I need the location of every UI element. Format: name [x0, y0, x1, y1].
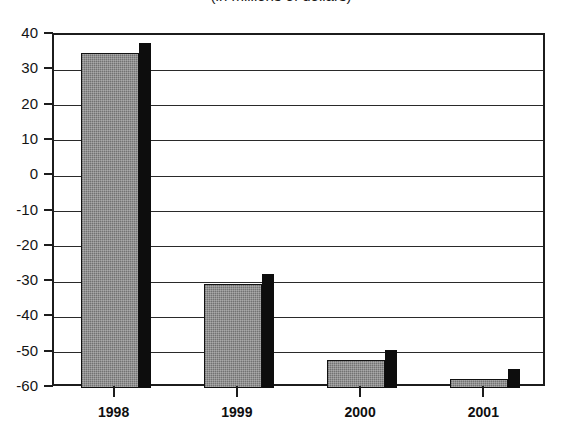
- chart-title-clipped: (in millions of dollars): [0, 0, 562, 13]
- y-axis-label: 20: [0, 96, 38, 111]
- y-axis-label: -50: [0, 343, 38, 358]
- bar-face: [327, 360, 385, 388]
- bar-side-shadow: [385, 350, 397, 388]
- x-axis-tick: [113, 386, 115, 397]
- y-axis-label: -60: [0, 378, 38, 393]
- plot-area: [52, 33, 545, 386]
- y-axis-tick: [44, 138, 53, 140]
- bar-side-shadow: [508, 369, 520, 388]
- x-axis-tick: [236, 386, 238, 397]
- x-axis-label-1999: 1999: [197, 405, 277, 419]
- x-axis-tick: [482, 386, 484, 397]
- y-axis-tick: [44, 244, 53, 246]
- bar-face: [81, 53, 139, 388]
- y-axis-tick: [44, 173, 53, 175]
- y-axis-label: 10: [0, 131, 38, 146]
- y-axis-tick: [44, 350, 53, 352]
- y-axis-tick: [44, 67, 53, 69]
- y-axis-tick: [44, 209, 53, 211]
- x-axis-label-2000: 2000: [320, 405, 400, 419]
- chart-page: (in millions of dollars) 403020100-10-20…: [0, 0, 562, 434]
- y-axis-label: -20: [0, 237, 38, 252]
- y-axis-label: -30: [0, 272, 38, 287]
- x-axis-label-2001: 2001: [443, 405, 523, 419]
- bar-face: [450, 379, 508, 388]
- chart-title: (in millions of dollars): [0, 0, 562, 4]
- bar-side-shadow: [262, 274, 274, 388]
- bar-face: [204, 284, 262, 388]
- y-axis-tick: [44, 385, 53, 387]
- y-axis-tick: [44, 279, 53, 281]
- y-axis-tick: [44, 314, 53, 316]
- y-axis-label: 40: [0, 25, 38, 40]
- y-axis-tick: [44, 103, 53, 105]
- y-axis-label: 30: [0, 60, 38, 75]
- y-axis-tick: [44, 32, 53, 34]
- y-axis-label: -40: [0, 307, 38, 322]
- bar-side-shadow: [139, 43, 151, 388]
- x-axis-label-1998: 1998: [74, 405, 154, 419]
- y-axis-label: 0: [0, 166, 38, 181]
- y-axis-label: -10: [0, 202, 38, 217]
- x-axis-tick: [359, 386, 361, 397]
